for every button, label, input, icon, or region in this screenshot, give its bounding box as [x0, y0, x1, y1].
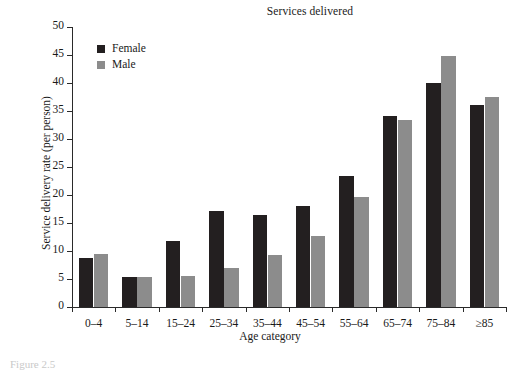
y-tick-label: 10: [34, 243, 64, 255]
bar-male-8: [441, 56, 456, 307]
y-tick-label: 50: [34, 19, 64, 31]
y-tick-label: 5: [34, 271, 64, 283]
chart-legend: FemaleMale: [97, 41, 146, 73]
x-tick-mark: [463, 307, 464, 312]
y-tick-mark: [67, 139, 72, 140]
bar-female-0: [79, 258, 94, 307]
x-tick-label-4: 35–44: [253, 317, 282, 329]
y-tick-mark: [67, 223, 72, 224]
legend-swatch-icon: [97, 45, 105, 53]
x-tick-label-0: 0–4: [85, 317, 102, 329]
y-tick-label: 30: [34, 131, 64, 143]
legend-label: Female: [112, 43, 146, 55]
y-tick-mark: [67, 83, 72, 84]
x-tick-label-9: ≥85: [475, 317, 493, 329]
x-tick-mark: [159, 307, 160, 312]
bar-male-1: [137, 277, 152, 307]
x-tick-mark: [72, 307, 73, 312]
legend-item-female: Female: [97, 41, 146, 57]
legend-item-male: Male: [97, 57, 146, 73]
y-tick-label: 25: [34, 159, 64, 171]
bar-female-6: [339, 176, 354, 307]
x-tick-mark: [289, 307, 290, 312]
x-tick-label-1: 5–14: [126, 317, 149, 329]
bar-female-8: [426, 83, 441, 307]
bar-female-9: [470, 105, 485, 307]
bar-female-4: [253, 215, 268, 307]
bar-male-7: [398, 120, 413, 307]
x-tick-mark: [202, 307, 203, 312]
x-tick-mark: [246, 307, 247, 312]
bar-male-9: [485, 97, 500, 307]
x-tick-mark: [506, 307, 507, 312]
y-tick-mark: [67, 279, 72, 280]
y-tick-mark: [67, 251, 72, 252]
y-axis-line: [72, 27, 73, 308]
bar-male-3: [224, 268, 239, 307]
bar-female-7: [383, 116, 398, 307]
x-tick-mark: [419, 307, 420, 312]
x-tick-label-2: 15–24: [166, 317, 195, 329]
legend-swatch-icon: [97, 61, 105, 69]
bar-male-6: [354, 197, 369, 307]
bar-female-5: [296, 206, 311, 307]
y-tick-mark: [67, 195, 72, 196]
y-tick-label: 40: [34, 75, 64, 87]
bar-male-5: [311, 236, 326, 307]
x-tick-label-8: 75–84: [427, 317, 456, 329]
x-tick-label-3: 25–34: [210, 317, 239, 329]
x-tick-label-7: 65–74: [383, 317, 412, 329]
y-tick-label: 35: [34, 103, 64, 115]
figure-caption: Figure 2.5: [10, 358, 55, 370]
y-tick-mark: [67, 111, 72, 112]
x-axis-title: Age category: [160, 330, 380, 342]
legend-label: Male: [112, 59, 136, 71]
chart-title: Services delivered: [180, 5, 440, 17]
bar-male-0: [94, 254, 109, 307]
bar-male-2: [181, 276, 196, 307]
x-tick-mark: [115, 307, 116, 312]
x-tick-mark: [376, 307, 377, 312]
y-tick-label: 45: [34, 47, 64, 59]
y-tick-label: 20: [34, 187, 64, 199]
figure-container: Services delivered Service delivery rate…: [0, 0, 520, 372]
bar-female-3: [209, 211, 224, 307]
x-tick-mark: [332, 307, 333, 312]
y-tick-mark: [67, 27, 72, 28]
y-tick-label: 0: [34, 299, 64, 311]
x-tick-label-5: 45–54: [296, 317, 325, 329]
y-tick-mark: [67, 55, 72, 56]
bar-male-4: [268, 255, 283, 307]
bar-female-1: [122, 277, 137, 307]
bar-female-2: [166, 241, 181, 307]
y-tick-mark: [67, 167, 72, 168]
x-tick-label-6: 55–64: [340, 317, 369, 329]
y-tick-label: 15: [34, 215, 64, 227]
